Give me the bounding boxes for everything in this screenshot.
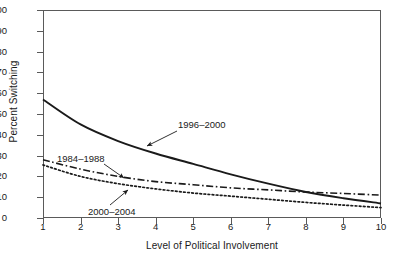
series-label-2000-2004: 2000–2004 bbox=[88, 207, 136, 217]
series-layer bbox=[0, 0, 393, 264]
series-label-1984-1988: 1984–1988 bbox=[57, 154, 105, 164]
series-line-1996-2000 bbox=[43, 99, 381, 203]
leader-2000-2004 bbox=[110, 190, 128, 205]
leader-1996-2000 bbox=[147, 131, 177, 146]
series-line-1984-1988 bbox=[43, 160, 381, 195]
chart-figure: Percent Switching Level of Political Inv… bbox=[0, 0, 393, 264]
series-label-1996-2000: 1996–2000 bbox=[178, 120, 226, 130]
